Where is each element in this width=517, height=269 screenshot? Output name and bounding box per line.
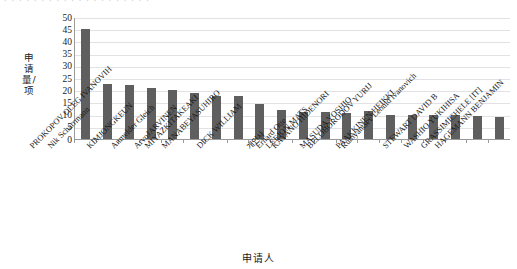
y-axis-title-text: 申请量/项 <box>22 52 36 96</box>
y-axis-tick-label: 25 <box>63 75 73 84</box>
bar-slot <box>467 18 489 139</box>
x-axis-title: 申请人 <box>0 250 517 265</box>
y-axis-tick-label: 40 <box>63 38 73 47</box>
bar[interactable] <box>495 117 504 139</box>
bar-chart: 申请量/项 05101520253035404550 Nik Scharrman… <box>0 6 517 246</box>
y-axis-tick-label: 35 <box>63 50 73 59</box>
y-axis-tick-label: 20 <box>63 87 73 96</box>
x-axis-category-labels: Nik ScharrmannPROKOPOV OLEG IVANOVIHKIMJ… <box>0 142 517 246</box>
y-axis-tick-label: 30 <box>63 62 73 71</box>
y-axis-tick-label: 50 <box>63 14 73 23</box>
y-axis-tick-label: 45 <box>63 26 73 35</box>
bar-slot <box>249 18 271 139</box>
y-axis-title: 申请量/项 <box>22 52 36 96</box>
bar[interactable] <box>473 116 482 139</box>
x-axis-title-text: 申请人 <box>242 253 275 264</box>
bar-slot <box>380 18 402 139</box>
